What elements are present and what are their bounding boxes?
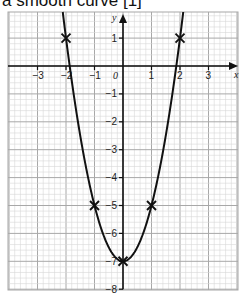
svg-text:1: 1 (111, 33, 117, 44)
svg-text:−8: −8 (106, 284, 118, 295)
axes: xy (8, 12, 239, 289)
svg-text:−6: −6 (106, 228, 118, 239)
svg-text:−5: −5 (106, 200, 118, 211)
svg-text:−1: −1 (106, 88, 118, 99)
svg-text:x: x (233, 69, 239, 80)
svg-text:−4: −4 (106, 172, 118, 183)
svg-text:−1: −1 (90, 70, 102, 81)
parabola-graph: xy −3−2−101231−1−2−3−4−5−6−7−8 (0, 0, 245, 303)
svg-text:3: 3 (206, 70, 212, 81)
svg-text:1: 1 (149, 70, 155, 81)
svg-text:2: 2 (177, 70, 183, 81)
svg-text:−3: −3 (106, 144, 118, 155)
svg-text:−2: −2 (106, 116, 118, 127)
tick-labels: −3−2−101231−1−2−3−4−5−6−7−8 (33, 33, 212, 295)
svg-text:−3: −3 (33, 70, 45, 81)
svg-text:0: 0 (113, 70, 118, 81)
svg-text:y: y (111, 12, 117, 23)
